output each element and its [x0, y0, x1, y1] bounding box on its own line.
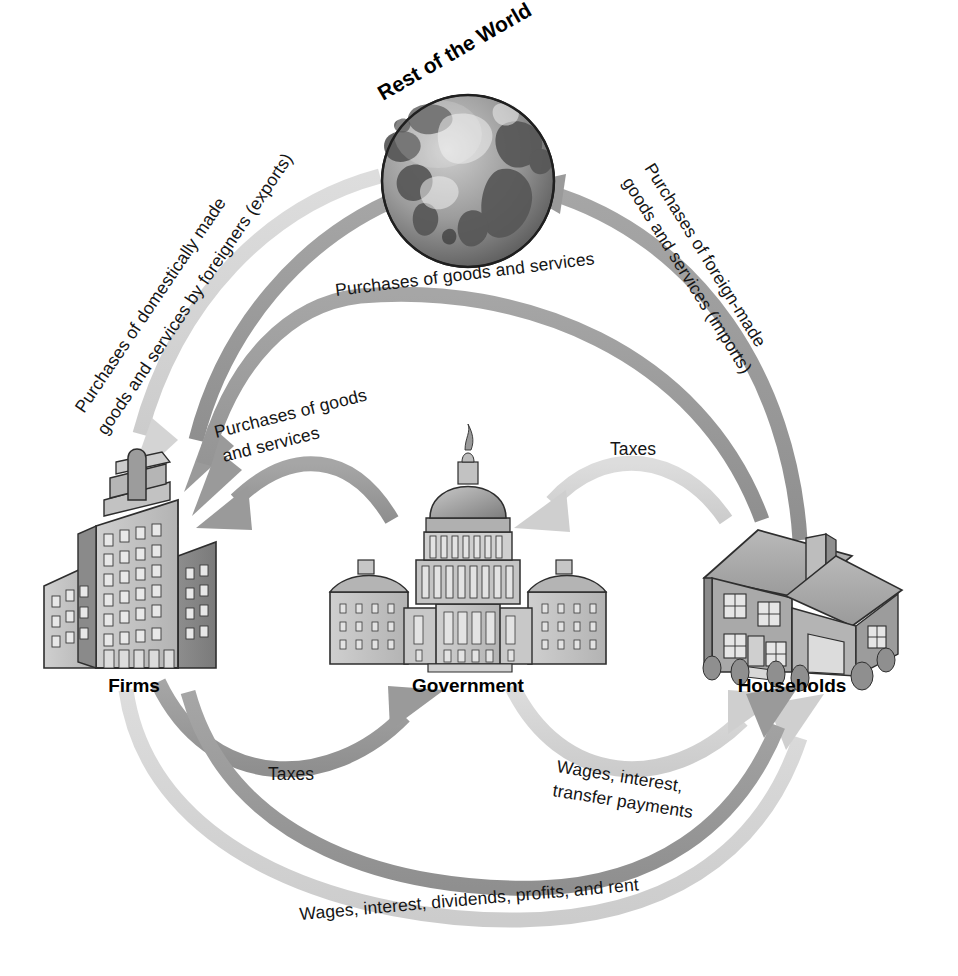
- label-layer: Rest of the World Purchases of domestica…: [0, 0, 958, 976]
- firm-taxes-label: Taxes: [268, 764, 314, 784]
- rest-of-world-label-part1: Rest of the World: [374, 0, 536, 104]
- circular-flow-diagram: Rest of the World Purchases of domestica…: [0, 0, 958, 976]
- imports-label-line2: goods and services (imports): [619, 174, 757, 378]
- firms-label: Firms: [108, 675, 160, 696]
- label-firm-taxes: Taxes: [268, 764, 314, 784]
- households-label: Households: [738, 675, 847, 696]
- household-taxes-label: Taxes: [610, 439, 656, 459]
- factor-payments-label: Wages, interest, dividends, profits, and…: [299, 874, 640, 924]
- label-household-taxes: Taxes: [610, 439, 656, 459]
- exports-label-line1: Purchases of domestically made: [71, 194, 230, 417]
- household-purchases-label: Purchases of goods and services: [334, 248, 596, 300]
- label-imports: Purchases of foreign-made goods and serv…: [619, 160, 771, 378]
- exports-label-line2: goods and services by foreigners (export…: [93, 149, 297, 438]
- globe-title: Rest of the World: [374, 0, 536, 104]
- government-label: Government: [412, 675, 525, 696]
- label-factor-payments: Wages, interest, dividends, profits, and…: [299, 874, 640, 924]
- label-government-transfers: Wages, interest, transfer payments: [551, 756, 694, 822]
- label-exports: Purchases of domestically made goods and…: [71, 149, 297, 438]
- label-government-purchases: Purchases of goods and services: [212, 385, 369, 466]
- label-household-purchases: Purchases of goods and services: [334, 248, 596, 300]
